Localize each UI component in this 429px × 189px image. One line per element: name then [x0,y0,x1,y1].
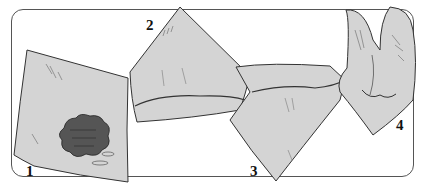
step-4-cloth [339,7,416,135]
step-3-cloth [230,64,345,181]
folding-illustration: 1 2 3 4 [0,0,429,189]
step-label-3: 3 [250,164,258,179]
folding-steps-drawing [0,0,429,189]
step-label-2: 2 [146,18,154,33]
step-label-1: 1 [26,164,34,179]
step-label-4: 4 [396,118,404,133]
